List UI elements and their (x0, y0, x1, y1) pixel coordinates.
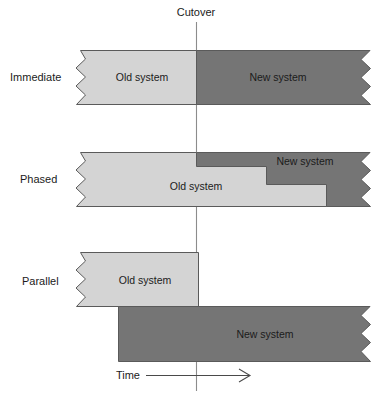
row-parallel: Parallel Old system New system (22, 253, 371, 362)
parallel-new-system-label: New system (236, 328, 293, 340)
phased-new-system-label: New system (276, 155, 333, 167)
immediate-old-system-label: Old system (116, 71, 169, 83)
cutover-label: Cutover (177, 6, 216, 18)
row-label-immediate: Immediate (10, 71, 61, 83)
parallel-old-system-label: Old system (119, 274, 172, 286)
row-phased: Phased Old system New system (20, 153, 371, 207)
time-axis-label: Time (116, 369, 140, 381)
changeover-diagram: Immediate Old system New system Phased O… (0, 0, 385, 408)
row-immediate: Immediate Old system New system (10, 51, 371, 105)
phased-old-system-label: Old system (170, 180, 223, 192)
immediate-new-system-label: New system (249, 71, 306, 83)
diagram-canvas: Immediate Old system New system Phased O… (0, 0, 385, 408)
time-axis: Time (116, 369, 250, 382)
row-label-parallel: Parallel (22, 275, 59, 287)
row-label-phased: Phased (20, 173, 57, 185)
